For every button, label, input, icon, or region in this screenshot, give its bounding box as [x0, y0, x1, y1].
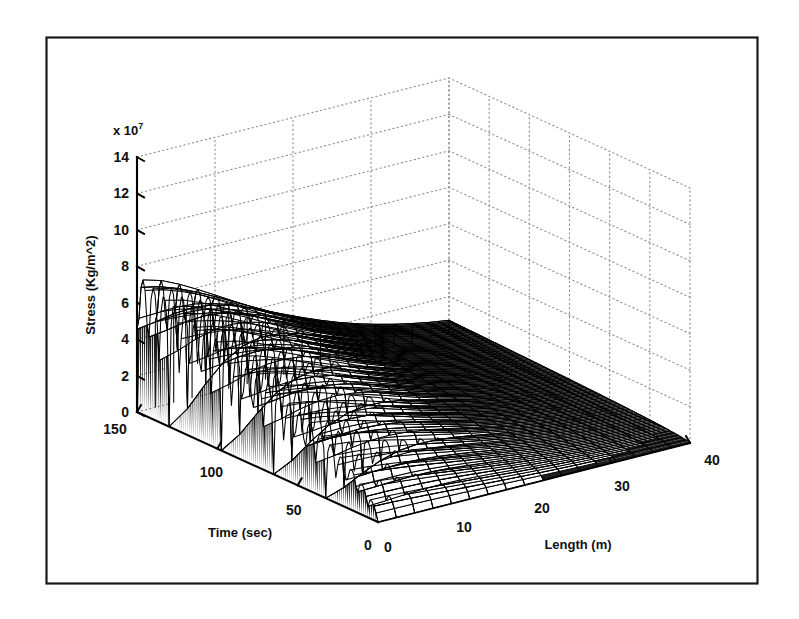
z-tick-12: 12: [113, 185, 129, 201]
y-tick-0: 0: [384, 539, 392, 555]
z-axis-title: Stress (Kg/m^2): [83, 235, 98, 334]
x-tick-50: 50: [286, 502, 302, 518]
z-exponent-value: 7: [138, 121, 143, 131]
z-tick-4: 4: [121, 331, 129, 347]
x-tick-100: 100: [200, 464, 224, 480]
z-exponent-prefix: x 10: [113, 123, 138, 138]
x-axis-title: Time (sec): [208, 525, 272, 540]
y-axis-title: Length (m): [544, 537, 611, 552]
x-tick-0: 0: [364, 537, 372, 553]
y-tick-30: 30: [614, 478, 630, 494]
z-tick-10: 10: [113, 222, 129, 238]
figure-canvas: Time (sec) Length (m) Stress (Kg/m^2) x …: [0, 0, 799, 619]
x-tick-150: 150: [103, 421, 127, 437]
z-tick-2: 2: [121, 368, 129, 384]
z-tick-0: 0: [121, 404, 129, 420]
z-tick-14: 14: [113, 149, 129, 165]
y-tick-20: 20: [534, 500, 550, 516]
surface-plot-svg: Time (sec) Length (m) Stress (Kg/m^2) x …: [0, 0, 799, 619]
y-tick-10: 10: [456, 519, 472, 535]
z-tick-6: 6: [121, 295, 129, 311]
y-tick-40: 40: [704, 452, 720, 468]
z-tick-8: 8: [121, 258, 129, 274]
